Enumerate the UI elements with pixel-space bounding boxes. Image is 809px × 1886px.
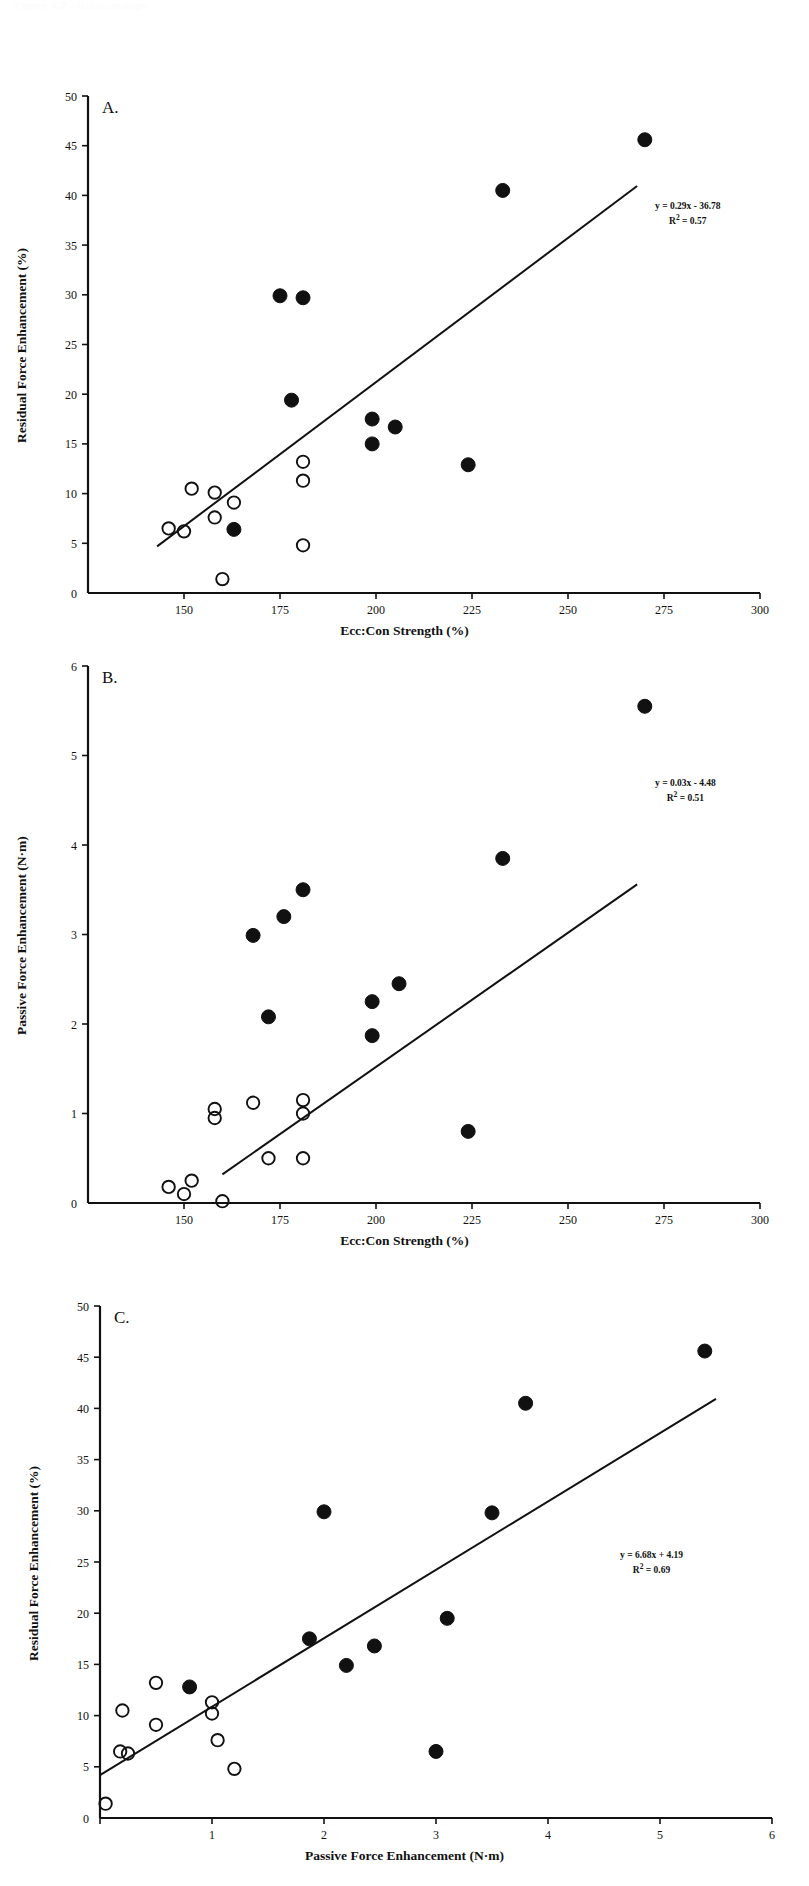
data-point-filled	[183, 1680, 197, 1694]
y-tick-label: 35	[77, 1453, 89, 1467]
y-tick-label: 15	[77, 1658, 89, 1672]
data-point-filled	[285, 393, 299, 407]
y-tick-label: 25	[65, 338, 77, 352]
data-point-open	[209, 486, 221, 498]
y-tick-label: 50	[65, 90, 77, 104]
y-tick-label: 20	[77, 1607, 89, 1621]
data-point-open	[162, 1181, 174, 1193]
y-tick-label: 4	[71, 839, 77, 853]
panel-letter-a: A.	[102, 98, 119, 118]
y-tick-label: 5	[71, 537, 77, 551]
x-tick-label: 250	[559, 1213, 577, 1227]
y-tick-label: 45	[77, 1351, 89, 1365]
y-axis-label-b: Passive Force Enhancement (N·m)	[14, 670, 30, 1201]
data-point-open	[114, 1745, 126, 1757]
x-tick-label: 300	[751, 603, 769, 617]
data-point-open	[185, 482, 197, 494]
y-tick-label: 10	[65, 487, 77, 501]
x-tick-label: 275	[655, 603, 673, 617]
x-tick-label: 150	[175, 1213, 193, 1227]
y-tick-label: 40	[77, 1402, 89, 1416]
x-tick-label: 250	[559, 603, 577, 617]
y-tick-label: 1	[71, 1107, 77, 1121]
y-tick-label: 0	[71, 1197, 77, 1211]
plot-area-c: 05101520253035404550123456	[0, 1258, 809, 1858]
data-point-open	[216, 573, 228, 585]
y-tick-label: 50	[77, 1300, 89, 1314]
x-tick-label: 5	[657, 1828, 663, 1842]
data-point-filled	[365, 437, 379, 451]
y-axis-label-c: Residual Force Enhancement (%)	[26, 1310, 42, 1816]
data-point-open	[228, 496, 240, 508]
regression-annotation-a: y = 0.29x - 36.78R2 = 0.57	[655, 201, 721, 228]
scatter-panel-a: 0510152025303540455015017520022525027530…	[0, 38, 809, 638]
x-tick-label: 225	[463, 1213, 481, 1227]
x-axis-label-a: Ecc:Con Strength (%)	[0, 623, 809, 639]
data-point-filled	[365, 412, 379, 426]
data-point-filled	[339, 1658, 353, 1672]
data-point-open	[211, 1734, 223, 1746]
data-point-filled	[302, 1632, 316, 1646]
data-point-filled	[273, 289, 287, 303]
data-point-filled	[440, 1611, 454, 1625]
data-point-filled	[496, 851, 510, 865]
x-tick-label: 1	[209, 1828, 215, 1842]
panel-letter-c: C.	[114, 1308, 130, 1328]
page-faint-header: Figure 4.2 - Relationships	[14, 0, 147, 11]
x-tick-label: 275	[655, 1213, 673, 1227]
data-point-filled	[638, 699, 652, 713]
y-tick-label: 40	[65, 189, 77, 203]
y-tick-label: 45	[65, 139, 77, 153]
trendline	[100, 1399, 716, 1775]
regression-r2: R2 = 0.57	[655, 213, 721, 228]
data-point-open	[209, 511, 221, 523]
regression-equation: y = 6.68x + 4.19	[620, 1550, 683, 1562]
data-point-open	[297, 539, 309, 551]
data-point-open	[209, 1112, 221, 1124]
data-point-filled	[698, 1344, 712, 1358]
data-point-filled	[367, 1639, 381, 1653]
data-point-filled	[461, 1124, 475, 1138]
data-point-open	[247, 1097, 259, 1109]
x-tick-label: 4	[545, 1828, 551, 1842]
data-point-open	[162, 522, 174, 534]
x-tick-label: 200	[367, 1213, 385, 1227]
y-tick-label: 30	[65, 288, 77, 302]
y-tick-label: 20	[65, 388, 77, 402]
x-tick-label: 200	[367, 603, 385, 617]
data-point-filled	[392, 977, 406, 991]
x-tick-label: 150	[175, 603, 193, 617]
data-point-filled	[496, 183, 510, 197]
data-point-filled	[388, 420, 402, 434]
x-tick-label: 3	[433, 1828, 439, 1842]
scatter-panel-b: 0123456150175200225250275300B.Passive Fo…	[0, 648, 809, 1248]
data-point-filled	[227, 522, 241, 536]
data-point-filled	[519, 1396, 533, 1410]
data-point-filled	[461, 458, 475, 472]
x-axis-label-c: Passive Force Enhancement (N·m)	[0, 1848, 809, 1864]
y-tick-label: 2	[71, 1018, 77, 1032]
y-tick-label: 5	[71, 749, 77, 763]
data-point-filled	[246, 928, 260, 942]
x-tick-label: 6	[769, 1828, 775, 1842]
data-point-open	[297, 1152, 309, 1164]
data-point-filled	[365, 1029, 379, 1043]
x-tick-label: 2	[321, 1828, 327, 1842]
y-tick-label: 25	[77, 1556, 89, 1570]
data-point-filled	[365, 995, 379, 1009]
y-axis-label-a: Residual Force Enhancement (%)	[14, 100, 30, 591]
data-point-filled	[317, 1505, 331, 1519]
data-point-open	[262, 1152, 274, 1164]
data-point-filled	[638, 133, 652, 147]
regression-equation: y = 0.03x - 4.48	[655, 778, 716, 790]
y-tick-label: 3	[71, 928, 77, 942]
data-point-filled	[429, 1744, 443, 1758]
y-tick-label: 0	[71, 587, 77, 601]
regression-r2: R2 = 0.69	[620, 1562, 683, 1577]
scatter-panel-c: 05101520253035404550123456C.Residual For…	[0, 1258, 809, 1858]
regression-annotation-c: y = 6.68x + 4.19R2 = 0.69	[620, 1550, 683, 1577]
trendline	[157, 186, 637, 546]
x-tick-label: 175	[271, 1213, 289, 1227]
regression-annotation-b: y = 0.03x - 4.48R2 = 0.51	[655, 778, 716, 805]
y-tick-label: 35	[65, 239, 77, 253]
